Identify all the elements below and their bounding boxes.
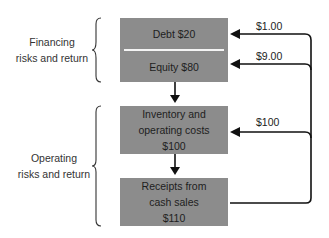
left-arrow-icon [230, 59, 240, 69]
left-arrow-icon [230, 127, 240, 137]
down-arrow-icon [170, 167, 180, 175]
diagram-lines [0, 0, 329, 238]
left-arrow-icon [230, 29, 240, 39]
financing-brace [92, 18, 101, 82]
operating-brace [92, 106, 101, 226]
down-arrow-icon [170, 95, 180, 103]
